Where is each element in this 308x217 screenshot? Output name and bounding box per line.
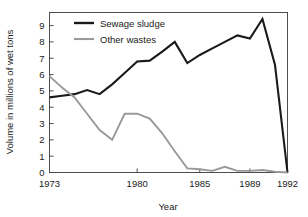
y-tick-label: 1 <box>39 151 44 162</box>
data-series-group <box>50 19 288 172</box>
y-tick-label: 2 <box>39 134 44 145</box>
y-tick-label: 5 <box>39 85 44 96</box>
y-axis-tick-labels: 0123456789 <box>39 20 44 178</box>
x-tick-label: 1992 <box>277 178 298 189</box>
y-tick-label: 4 <box>39 102 44 113</box>
chart-figure: 0123456789 19731980198519891992 Sewage s… <box>0 0 308 217</box>
y-tick-label: 6 <box>39 69 44 80</box>
y-tick-label: 3 <box>39 118 44 129</box>
y-axis-title: Volume in millions of wet tons <box>4 29 15 154</box>
y-tick-label: 7 <box>39 53 44 64</box>
x-axis-title: Year <box>158 201 177 212</box>
legend-label: Other wastes <box>100 34 156 45</box>
x-tick-label: 1980 <box>127 178 148 189</box>
x-tick-label: 1973 <box>39 178 60 189</box>
line-chart: 0123456789 19731980198519891992 Sewage s… <box>0 0 308 217</box>
y-tick-label: 0 <box>39 167 44 178</box>
x-tick-label: 1985 <box>189 178 210 189</box>
y-tick-label: 9 <box>39 20 44 31</box>
x-axis-tick-labels: 19731980198519891992 <box>39 178 298 189</box>
series-line <box>50 19 288 172</box>
y-axis-tick-marks <box>50 26 54 173</box>
chart-legend: Sewage sludgeOther wastes <box>74 18 165 45</box>
legend-label: Sewage sludge <box>100 18 165 29</box>
x-tick-label: 1989 <box>239 178 260 189</box>
y-tick-label: 8 <box>39 36 44 47</box>
